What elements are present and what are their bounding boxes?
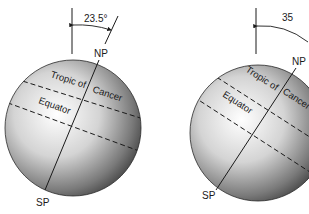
tilt-angle-label: 35 xyxy=(282,12,294,23)
south-pole-label: SP xyxy=(202,190,216,201)
north-pole-label: NP xyxy=(292,56,306,67)
left-globe-figure: 23.5° NP SP Tropic of Cancer Equator xyxy=(0,8,150,208)
tilt-angle-arc xyxy=(257,26,308,42)
south-pole-label: SP xyxy=(36,197,50,208)
right-globe-figure: 35 NP SP Tropic of Cancer Equator xyxy=(180,8,309,201)
tilt-angle-arc xyxy=(73,25,111,30)
earth-tilt-diagram: 23.5° NP SP Tropic of Cancer Equator 35 … xyxy=(0,0,309,214)
north-pole-label: NP xyxy=(94,48,108,59)
tilt-angle-label: 23.5° xyxy=(84,13,107,24)
